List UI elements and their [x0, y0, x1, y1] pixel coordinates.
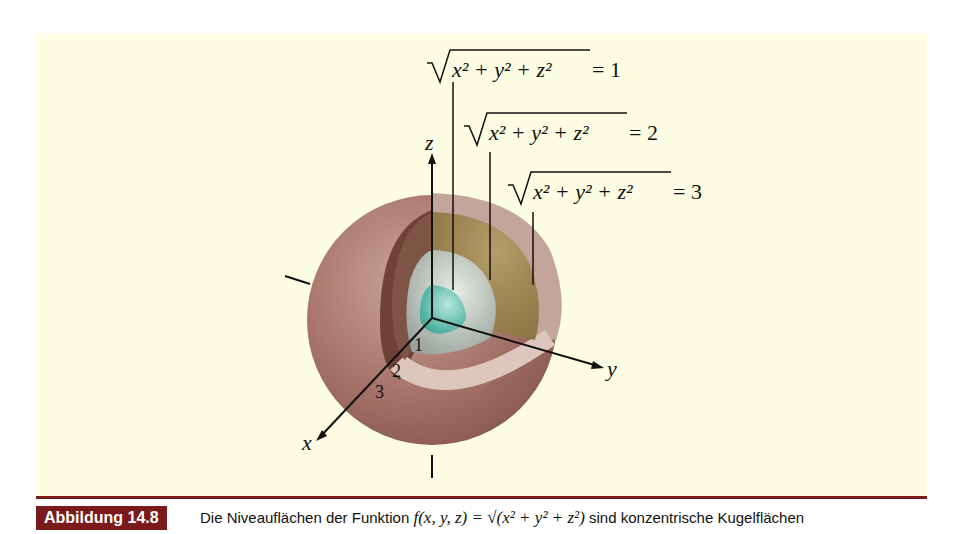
x-axis-label: x: [301, 430, 312, 455]
svg-text:x² + y² + z²: x² + y² + z²: [532, 179, 633, 204]
caption-rule: [36, 496, 927, 499]
y-axis-label: y: [605, 356, 617, 381]
tick-3: 3: [375, 382, 384, 402]
svg-text:= 3: = 3: [673, 179, 702, 204]
figure-number-badge: Abbildung 14.8: [36, 506, 167, 530]
svg-text:x² + y² + z²: x² + y² + z²: [451, 57, 552, 82]
concentric-spheres-diagram: z y x 1 2 3 x² + y² + z² = 1 x² + y² + z…: [0, 0, 963, 534]
caption-math: f(x, y, z) = √(x² + y² + z²): [413, 508, 584, 527]
level-surface-label-1: x² + y² + z² = 1: [427, 50, 621, 82]
figure-caption: Die Niveauflächen der Funktion f(x, y, z…: [200, 506, 804, 530]
caption-text-post: sind konzentrische Kugelflächen: [585, 509, 804, 526]
svg-text:= 2: = 2: [629, 120, 658, 145]
tick-1: 1: [414, 335, 423, 355]
svg-text:x² + y² + z²: x² + y² + z²: [488, 120, 589, 145]
z-axis-label: z: [424, 130, 434, 155]
level-surface-label-2: x² + y² + z² = 2: [464, 113, 658, 145]
tick-2: 2: [392, 361, 401, 381]
caption-text-pre: Die Niveauflächen der Funktion: [200, 509, 413, 526]
svg-text:= 1: = 1: [592, 57, 621, 82]
level-surface-label-3: x² + y² + z² = 3: [508, 172, 702, 204]
